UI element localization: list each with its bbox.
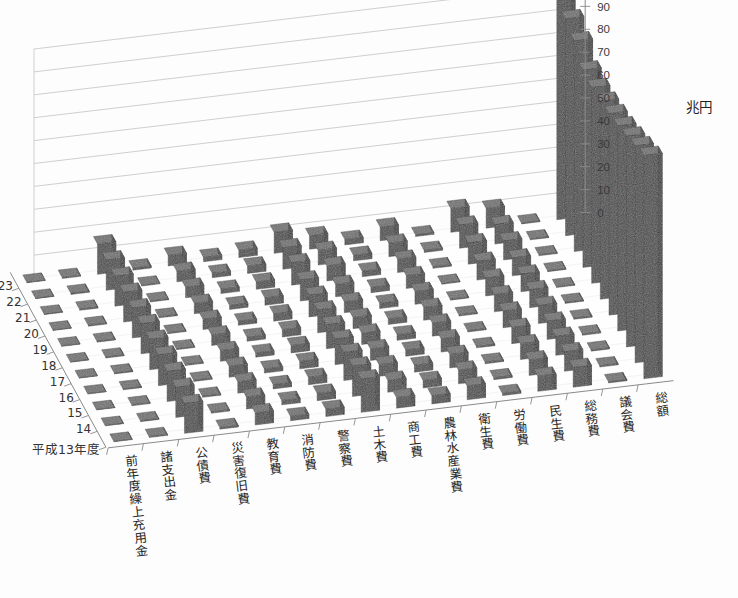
bar — [110, 432, 132, 442]
y-axis-tick-label: 50 — [597, 92, 610, 104]
y-axis-tick-label: 90 — [597, 1, 610, 13]
depth-axis-tick-label: 21 — [6, 311, 30, 325]
bar — [286, 407, 308, 421]
depth-axis-tick-label: 17 — [41, 375, 65, 389]
y-axis-tick-label: 70 — [597, 46, 610, 58]
bar — [145, 427, 167, 437]
depth-axis-tick-label: 15 — [59, 406, 83, 420]
y-axis-unit-label: 兆円 — [686, 96, 712, 116]
y-axis-tick-label: 0 — [597, 207, 603, 219]
y-axis-tick-label: 10 — [597, 184, 610, 196]
depth-axis-tick-label: 18 — [32, 359, 56, 373]
depth-axis-tick-label: 19 — [24, 343, 48, 357]
y-axis-tick-label: 60 — [597, 69, 610, 81]
depth-axis-origin-label: 平成13年度 — [16, 439, 100, 458]
bar — [216, 418, 238, 429]
bar — [604, 372, 626, 383]
three-d-bar-chart: 0102030405060708090100 — [0, 0, 738, 598]
depth-axis-tick-label: 14 — [67, 422, 91, 436]
y-axis-tick-label: 20 — [597, 161, 610, 173]
y-axis-tick-label: 80 — [597, 23, 610, 35]
depth-axis-tick-label: 20 — [15, 327, 39, 341]
bar — [498, 384, 520, 396]
chart-canvas: 0102030405060708090100 前年度繰上充用金諸支出金公債費災害… — [0, 0, 738, 598]
depth-axis-tick-label: 23 — [0, 279, 13, 293]
depth-axis-tick-label: 16 — [50, 391, 74, 405]
y-axis-tick-label: 30 — [597, 138, 610, 150]
depth-axis-tick-label: 22 — [0, 295, 22, 309]
bar — [322, 400, 344, 417]
y-axis-tick-label: 40 — [597, 115, 610, 127]
category-axis-label: 総額 — [652, 390, 668, 417]
